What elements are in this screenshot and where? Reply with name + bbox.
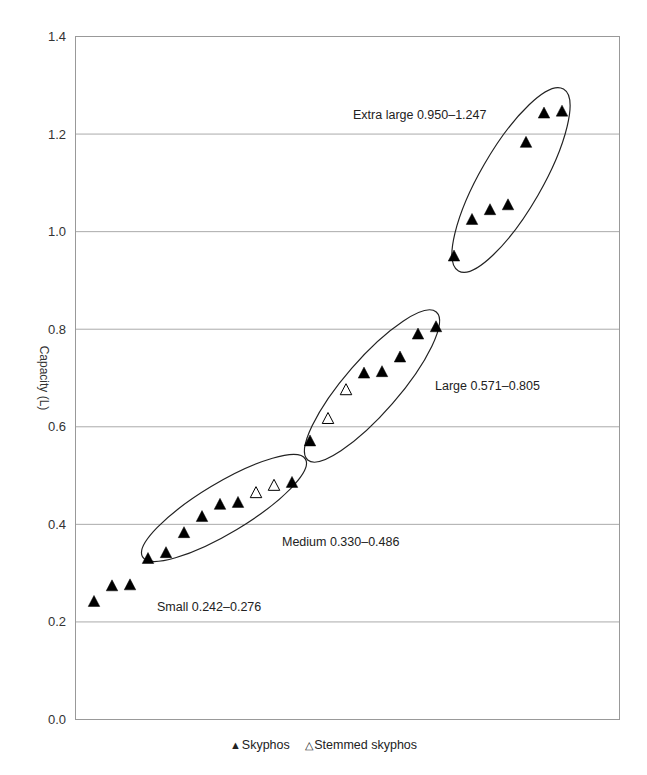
legend-label: Skyphos bbox=[242, 738, 290, 752]
skyphos-marker bbox=[484, 204, 496, 215]
skyphos-marker bbox=[520, 136, 532, 147]
skyphos-marker bbox=[394, 351, 406, 362]
skyphos-marker bbox=[232, 496, 244, 507]
label-extra-large: Extra large 0.950–1.247 bbox=[353, 108, 486, 122]
skyphos-marker bbox=[556, 105, 568, 116]
legend: ▲Skyphos △Stemmed skyphos bbox=[0, 738, 647, 752]
y-tick-label: 1.2 bbox=[48, 127, 66, 142]
plot-area bbox=[76, 37, 620, 720]
legend-label: Stemmed skyphos bbox=[314, 738, 417, 752]
stemmed-skyphos-marker bbox=[268, 479, 280, 490]
y-tick-label: 0.8 bbox=[48, 322, 66, 337]
stemmed-skyphos-marker bbox=[340, 384, 352, 395]
skyphos-marker bbox=[358, 367, 370, 378]
data-points bbox=[88, 105, 568, 606]
legend-item-skyphos: ▲Skyphos bbox=[230, 738, 290, 752]
skyphos-marker bbox=[124, 579, 136, 590]
y-tick-label: 1.0 bbox=[48, 224, 66, 239]
scatter-chart: 0.00.20.40.60.81.01.21.4 Capacity (L) Sm… bbox=[0, 0, 647, 775]
stemmed-skyphos-marker bbox=[250, 487, 262, 498]
skyphos-marker bbox=[178, 527, 190, 538]
y-axis-title: Capacity (L) bbox=[37, 346, 51, 411]
skyphos-marker bbox=[160, 547, 172, 558]
y-tick-label: 0.6 bbox=[48, 419, 66, 434]
ellipse-large bbox=[287, 294, 456, 477]
skyphos-marker bbox=[88, 595, 100, 606]
filled-triangle-icon: ▲ bbox=[230, 739, 241, 751]
label-small: Small 0.242–0.276 bbox=[157, 600, 261, 614]
skyphos-marker bbox=[448, 250, 460, 261]
skyphos-marker bbox=[214, 498, 226, 509]
skyphos-marker bbox=[196, 511, 208, 522]
y-tick-label: 0.4 bbox=[48, 517, 66, 532]
group-ellipses bbox=[130, 74, 591, 579]
skyphos-marker bbox=[412, 328, 424, 339]
skyphos-marker bbox=[376, 366, 388, 377]
label-medium: Medium 0.330–0.486 bbox=[282, 535, 399, 549]
skyphos-marker bbox=[502, 199, 514, 210]
skyphos-marker bbox=[466, 213, 478, 224]
y-tick-label: 0.0 bbox=[48, 712, 66, 727]
y-tick-label: 0.2 bbox=[48, 614, 66, 629]
stemmed-skyphos-marker bbox=[322, 412, 334, 423]
open-triangle-icon: △ bbox=[305, 739, 313, 751]
label-large: Large 0.571–0.805 bbox=[435, 379, 540, 393]
skyphos-marker bbox=[106, 580, 118, 591]
legend-item-stemmed-skyphos: △Stemmed skyphos bbox=[305, 738, 417, 752]
skyphos-marker bbox=[538, 107, 550, 118]
y-tick-label: 1.4 bbox=[48, 29, 66, 44]
